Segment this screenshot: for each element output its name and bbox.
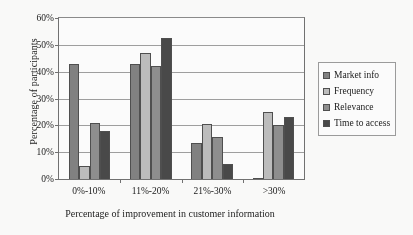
bar <box>130 64 140 179</box>
legend-item: Time to access <box>323 115 390 131</box>
bar <box>140 53 150 179</box>
bar-group <box>243 18 304 179</box>
bar-group <box>120 18 181 179</box>
bar <box>273 125 283 179</box>
x-tick-label: 11%-20% <box>120 186 182 196</box>
x-axis-ticks: 0%-10%11%-20%21%-30%>30% <box>58 186 305 196</box>
x-axis-title: Percentage of improvement in customer in… <box>0 208 340 219</box>
x-tick-mark <box>182 179 183 183</box>
legend-item: Frequency <box>323 83 390 99</box>
plot-area: 0%10%20%30%40%50%60% <box>58 17 305 180</box>
bar-group-bars <box>191 18 233 179</box>
legend-swatch-icon <box>323 120 330 127</box>
legend: Market infoFrequencyRelevanceTime to acc… <box>318 62 396 136</box>
y-tick-label: 0% <box>41 174 54 184</box>
bar-group-bars <box>69 18 111 179</box>
legend-swatch-icon <box>323 88 330 95</box>
bar <box>263 112 273 179</box>
bar <box>151 66 161 179</box>
x-tick-mark <box>243 179 244 183</box>
y-tick-label: 60% <box>37 13 54 23</box>
bar <box>284 117 294 179</box>
legend-label: Relevance <box>334 102 374 112</box>
bar-group-bars <box>253 18 295 179</box>
bar <box>100 131 110 179</box>
y-tick-label: 20% <box>37 120 54 130</box>
y-tick-label: 40% <box>37 67 54 77</box>
x-tick-mark <box>120 179 121 183</box>
legend-item: Relevance <box>323 99 390 115</box>
x-tick-label: >30% <box>243 186 305 196</box>
bar-group-bars <box>130 18 172 179</box>
legend-label: Frequency <box>334 86 374 96</box>
bar-groups <box>59 18 304 179</box>
legend-label: Market info <box>334 70 379 80</box>
bar-group <box>59 18 120 179</box>
y-tick-label: 50% <box>37 40 54 50</box>
y-tick-mark <box>55 179 59 180</box>
bar <box>191 143 201 179</box>
x-tick-label: 21%-30% <box>182 186 244 196</box>
legend-swatch-icon <box>323 104 330 111</box>
legend-swatch-icon <box>323 72 330 79</box>
bar <box>223 164 233 179</box>
bar <box>161 38 171 179</box>
chart-figure: Percentage of participants 0%10%20%30%40… <box>0 0 413 235</box>
legend-label: Time to access <box>334 118 390 128</box>
bar <box>202 124 212 179</box>
bar-group <box>182 18 243 179</box>
bar <box>90 123 100 179</box>
y-tick-label: 30% <box>37 94 54 104</box>
bar <box>253 178 263 179</box>
bar <box>69 64 79 179</box>
bar <box>79 166 89 179</box>
x-tick-label: 0%-10% <box>58 186 120 196</box>
bar <box>212 137 222 179</box>
y-tick-label: 10% <box>37 147 54 157</box>
legend-item: Market info <box>323 67 390 83</box>
